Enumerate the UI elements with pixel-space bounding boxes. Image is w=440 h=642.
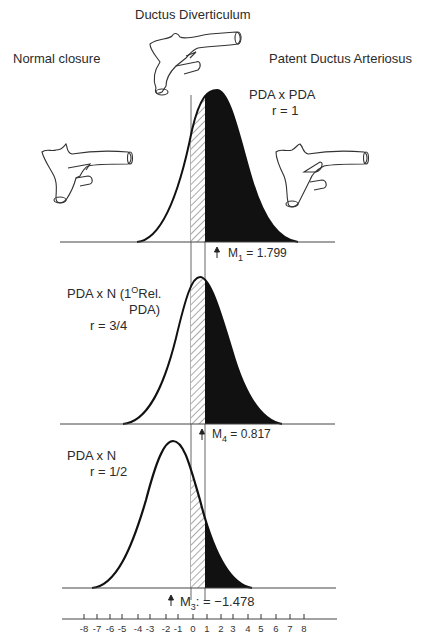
mean-value: 0.817	[241, 427, 271, 441]
panel-1-cross: PDA x PDA	[249, 87, 315, 102]
panel-1-mean: M1 = 1.799	[228, 246, 287, 262]
tick-label: -6	[106, 623, 114, 634]
mean-arrow-1	[215, 247, 220, 258]
panel-3-mean: M3: = −1.478	[180, 594, 254, 611]
panel-2-mean: M4 = 0.817	[212, 427, 271, 443]
panel-2-cross-line2: PDA)	[129, 302, 160, 317]
label-normal-closure: Normal closure	[13, 51, 100, 66]
tick-label: 7	[287, 623, 292, 634]
mean-value: 1.799	[257, 246, 287, 260]
mean-subscript: 1	[238, 253, 243, 263]
tick-label: 6	[273, 623, 278, 634]
mean-arrow-2	[200, 429, 205, 440]
label-ductus-diverticulum: Ductus Diverticulum	[135, 7, 251, 22]
mean-symbol: M	[228, 246, 238, 260]
liability-figure	[0, 0, 440, 642]
cross-text: PDA x N (1	[67, 286, 131, 301]
tick-label: 4	[245, 623, 250, 634]
tick-label: 8	[301, 623, 306, 634]
mean-sep: =	[243, 246, 257, 260]
tick-label: 5	[258, 623, 263, 634]
heart-normal-closure-icon	[42, 144, 133, 203]
mean-sep: =	[227, 427, 241, 441]
tick-label: -1	[174, 623, 182, 634]
panel-2-r: r = 3/4	[90, 318, 127, 333]
panel-3-cross: PDA x N	[67, 448, 116, 463]
mean-subscript: 4	[222, 434, 227, 444]
x-axis	[62, 614, 337, 619]
tick-label: 2	[218, 623, 223, 634]
mean-sep: : =	[196, 594, 214, 609]
tick-label: 1	[204, 623, 209, 634]
panel-2-cross: PDA x N (1ORel.	[67, 286, 161, 303]
panel-1-r: r = 1	[272, 103, 298, 118]
mean-value: −1.478	[214, 594, 254, 609]
tick-label: 3	[230, 623, 235, 634]
tick-label: -8	[80, 623, 88, 634]
heart-diverticulum-icon	[150, 32, 241, 95]
label-patent-ductus-arteriosus: Patent Ductus Arteriosus	[269, 51, 412, 66]
tick-label: -2	[162, 623, 170, 634]
mean-subscript: 3	[191, 602, 196, 612]
tick-label: -3	[146, 623, 154, 634]
mean-arrow-3	[169, 595, 174, 606]
cross-text-b: Rel.	[138, 286, 161, 301]
tick-label: 0	[190, 623, 195, 634]
panel-3-r: r = 1/2	[90, 464, 127, 479]
mean-symbol: M	[180, 594, 191, 609]
tick-label: -5	[118, 623, 126, 634]
tick-label: -7	[93, 623, 101, 634]
cross-superscript: O	[131, 285, 138, 295]
heart-patent-ductus-icon	[276, 144, 369, 207]
mean-symbol: M	[212, 427, 222, 441]
tick-label: -4	[134, 623, 142, 634]
